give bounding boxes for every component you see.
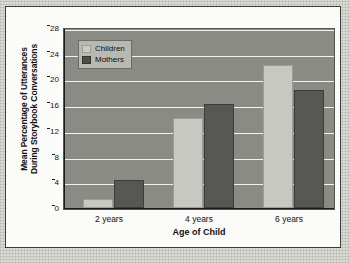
- legend-label-mothers: Mothers: [95, 55, 124, 64]
- bar-mothers-4-years: [204, 104, 234, 208]
- y-tick-label: 12: [50, 128, 59, 136]
- y-tick-mark: [47, 128, 50, 129]
- y-axis-title-line2: During Storybook Conversations: [29, 21, 39, 197]
- figure-card: Mean Percentage of Utterances During Sto…: [5, 6, 341, 248]
- y-tick-label: 0: [55, 205, 59, 213]
- y-tick-mark: [47, 25, 50, 26]
- legend-swatch-children-icon: [82, 45, 91, 53]
- y-tick-mark: [52, 205, 55, 206]
- x-axis-line: [64, 208, 334, 209]
- bar-mothers-6-years: [294, 90, 324, 208]
- x-axis-title: Age of Child: [63, 227, 335, 237]
- y-axis-title-line1: Mean Percentage of Utterances: [19, 21, 29, 197]
- y-tick-mark: [47, 76, 50, 77]
- bar-mothers-2-years: [114, 180, 144, 208]
- y-axis-line: [64, 29, 65, 209]
- bar-children-6-years: [263, 65, 293, 208]
- y-tick-label: 28: [50, 25, 59, 33]
- y-tick-mark: [47, 102, 50, 103]
- legend-item-mothers: Mothers: [82, 54, 125, 65]
- x-tick-label: 6 years: [244, 214, 334, 224]
- x-tick-label: 4 years: [154, 214, 244, 224]
- bar-group: [245, 28, 335, 208]
- y-tick-mark: [52, 154, 55, 155]
- y-tick-mark: [52, 179, 55, 180]
- y-tick-label: 24: [50, 51, 59, 59]
- y-axis-title: Mean Percentage of Utterances During Sto…: [19, 0, 49, 21]
- y-tick-mark: [47, 51, 50, 52]
- chart-legend: Children Mothers: [78, 40, 132, 69]
- bar-children-2-years: [83, 199, 113, 208]
- bar-children-4-years: [173, 118, 203, 208]
- y-tick-label: 8: [55, 154, 59, 162]
- x-tick-label: 2 years: [64, 214, 154, 224]
- y-tick-label: 16: [50, 102, 59, 110]
- bar-group: [155, 28, 245, 208]
- legend-label-children: Children: [95, 44, 125, 53]
- plot-wrapper: 0481216202428 2 years4 years6 years Chil…: [63, 28, 335, 210]
- legend-swatch-mothers-icon: [82, 56, 91, 64]
- legend-item-children: Children: [82, 43, 125, 54]
- y-tick-label: 20: [50, 76, 59, 84]
- y-tick-label: 4: [55, 179, 59, 187]
